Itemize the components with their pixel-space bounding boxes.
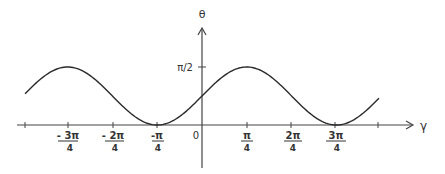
svg-text:4: 4	[67, 143, 73, 153]
svg-text:4: 4	[112, 143, 118, 153]
x-tick-label-neg-3pi-4: - 3π 4	[57, 130, 80, 153]
chart: θ γ π/2 0 - 3π 4 - 2π 4 -π 4 π 4 2π 4 3π…	[0, 0, 445, 174]
svg-text:- 3π: - 3π	[57, 130, 80, 141]
x-axis-label: γ	[420, 119, 427, 133]
svg-text:3π: 3π	[329, 130, 344, 141]
svg-text:2π: 2π	[286, 130, 301, 141]
svg-text:4: 4	[334, 143, 340, 153]
x-tick-label-2pi-4: 2π 4	[284, 130, 302, 153]
svg-text:π: π	[243, 130, 251, 141]
x-tick-label-neg-2pi-4: - 2π 4	[102, 130, 125, 153]
origin-label: 0	[193, 130, 199, 141]
svg-text:4: 4	[155, 143, 161, 153]
svg-text:4: 4	[244, 143, 250, 153]
svg-text:-π: -π	[151, 130, 163, 141]
svg-text:4: 4	[290, 143, 296, 153]
x-tick-label-3pi-4: 3π 4	[326, 130, 346, 153]
y-axis-label: θ	[199, 8, 206, 21]
y-tick-label-pi-half: π/2	[177, 62, 193, 73]
x-tick-label-pi-4: π 4	[241, 130, 253, 153]
svg-text:- 2π: - 2π	[102, 130, 125, 141]
x-tick-label-neg-pi-4: -π 4	[151, 130, 164, 153]
